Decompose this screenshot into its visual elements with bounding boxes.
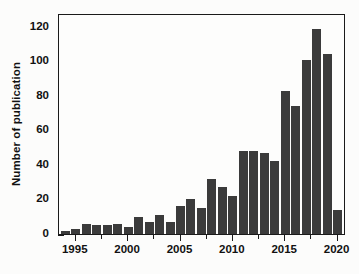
bar-2019 (323, 54, 332, 234)
bar-2006 (186, 199, 195, 234)
bar-2002 (145, 222, 154, 234)
x-tick-minor-2007.5 (206, 235, 207, 239)
bar-2005 (176, 206, 185, 234)
y-tick-label-120: 120 (0, 20, 49, 32)
bar-2020 (333, 210, 342, 234)
y-tick-label-80: 80 (0, 89, 49, 101)
x-tick-label-2010: 2010 (202, 243, 262, 255)
bar-2013 (260, 153, 269, 234)
y-tick-label-20: 20 (0, 192, 49, 204)
bar-series (59, 15, 344, 234)
x-tick-minor-2017.5 (310, 235, 311, 239)
bar-2009 (218, 187, 227, 234)
bar-2003 (155, 215, 164, 234)
bar-2010 (228, 196, 237, 234)
y-tick-0 (58, 235, 64, 236)
x-tick-2010 (232, 235, 233, 241)
x-tick-minor-2002.5 (153, 235, 154, 239)
bar-2016 (291, 106, 300, 234)
x-tick-2020 (337, 235, 338, 241)
bar-2008 (207, 179, 216, 234)
x-tick-label-2005: 2005 (150, 243, 210, 255)
bar-1994 (61, 231, 70, 234)
x-tick-1995 (75, 235, 76, 241)
y-tick-label-60: 60 (0, 123, 49, 135)
y-tick-label-0: 0 (0, 227, 49, 239)
bar-2000 (124, 227, 133, 234)
bar-2018 (312, 29, 321, 234)
bar-2012 (249, 151, 258, 234)
x-tick-2005 (180, 235, 181, 241)
y-tick-label-100: 100 (0, 54, 49, 66)
x-tick-2000 (127, 235, 128, 241)
bar-1996 (82, 224, 91, 234)
bar-2017 (302, 60, 311, 234)
bar-2004 (166, 222, 175, 234)
x-tick-minor-1997.5 (101, 235, 102, 239)
x-tick-label-2015: 2015 (254, 243, 314, 255)
bar-2007 (197, 208, 206, 234)
bar-1997 (92, 225, 101, 234)
y-tick-label-40: 40 (0, 158, 49, 170)
x-tick-minor-2012.5 (258, 235, 259, 239)
x-tick-label-2020: 2020 (307, 243, 359, 255)
bar-2011 (239, 151, 248, 234)
x-tick-label-2000: 2000 (97, 243, 157, 255)
bar-1998 (103, 225, 112, 234)
x-tick-2015 (284, 235, 285, 241)
bar-1995 (71, 229, 80, 234)
bar-2014 (270, 161, 279, 234)
x-tick-label-1995: 1995 (45, 243, 105, 255)
bar-1999 (113, 224, 122, 234)
bar-2015 (281, 91, 290, 234)
plot-area (58, 14, 345, 235)
publication-bar-chart: Number of publication 020406080100120 19… (0, 0, 359, 274)
bar-2001 (134, 217, 143, 234)
